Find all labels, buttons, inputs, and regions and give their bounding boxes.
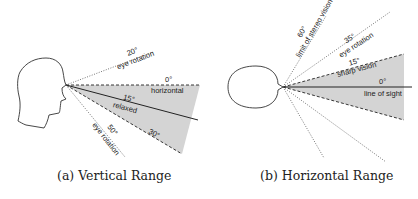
line-of-sight-label: line of sight: [364, 89, 403, 98]
eye-rotation-down-label: eye rotation: [90, 121, 121, 157]
figure: 20° eye rotation 0° horizontal 15° relax…: [0, 0, 418, 199]
panel-horizontal-range: limit of stereo vision 60° 35° eye rotat…: [228, 0, 412, 162]
line-of-sight-angle: 0°: [379, 77, 386, 86]
caption-vertical-range: (a) Vertical Range: [57, 168, 171, 183]
head-profile-icon: [18, 58, 66, 128]
head-top-view-icon: [228, 66, 283, 108]
caption-horizontal-range: (b) Horizontal Range: [260, 168, 393, 183]
stereo-lower-line: [283, 87, 324, 158]
horizontal-angle: 0°: [165, 75, 172, 84]
panel-vertical-range: 20° eye rotation 0° horizontal 15° relax…: [18, 40, 200, 157]
horizontal-label: horizontal: [151, 86, 184, 95]
